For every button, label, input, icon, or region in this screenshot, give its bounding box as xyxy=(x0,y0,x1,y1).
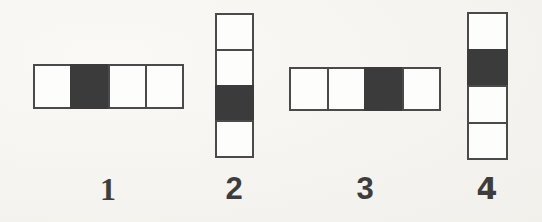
figure-1-cell-3 xyxy=(108,64,147,109)
figure-4-strip xyxy=(467,12,508,160)
figure-3-label: 3 xyxy=(340,172,390,206)
figure-2-cell-3 xyxy=(215,85,254,123)
figure-4-cell-1 xyxy=(467,12,508,51)
figure-4-cell-3 xyxy=(467,85,508,124)
figure-3-strip xyxy=(289,67,441,111)
figure-3-cell-4 xyxy=(402,67,442,111)
figure-1-label: 1 xyxy=(83,172,133,206)
figure-1-cell-4 xyxy=(145,64,184,109)
figure-2-cell-1 xyxy=(215,13,254,51)
figure-1-cell-1 xyxy=(33,64,72,109)
figure-3-cell-2 xyxy=(327,67,367,111)
figure-2-cell-4 xyxy=(215,120,254,158)
figure-1-strip xyxy=(33,64,184,109)
figure-2-label: 2 xyxy=(209,172,259,206)
figure-3-cell-3 xyxy=(364,67,404,111)
figure-4-cell-4 xyxy=(467,122,508,161)
figure-1-cell-2 xyxy=(70,64,109,109)
figure-4-label: 4 xyxy=(462,172,512,206)
figure-3-cell-1 xyxy=(289,67,329,111)
figure-4-cell-2 xyxy=(467,49,508,88)
figure-2-strip xyxy=(215,13,254,158)
scanned-page-background: 1 2 3 4 xyxy=(0,0,542,222)
figure-2-cell-2 xyxy=(215,49,254,87)
